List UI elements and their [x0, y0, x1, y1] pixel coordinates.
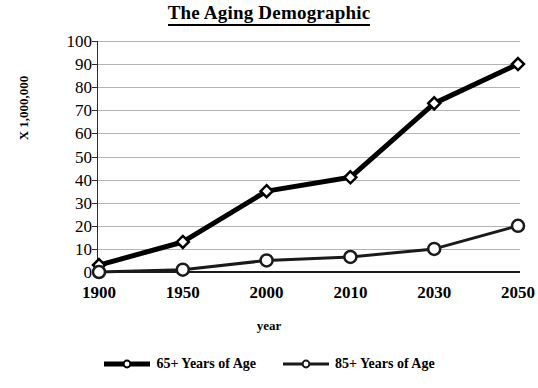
legend-label: 65+ Years of Age [156, 356, 256, 372]
x-tick-label: 1900 [59, 283, 139, 303]
y-tick-label: 10 [40, 240, 92, 257]
legend-item[interactable]: 65+ Years of Age [103, 356, 256, 372]
y-tick-label: 90 [40, 56, 92, 73]
y-axis-title: X 1,000,000 [16, 48, 32, 168]
x-tick-label: 2000 [227, 283, 307, 303]
y-tick-label: 70 [40, 102, 92, 119]
series-line [99, 64, 518, 265]
data-point-circle [177, 264, 189, 276]
y-axis-tick-labels: 0102030405060708090100 [40, 41, 92, 272]
data-point-circle [93, 266, 105, 278]
y-tick-label: 80 [40, 79, 92, 96]
x-tick-label: 1950 [143, 283, 223, 303]
chart-title-text: The Aging Demographic [168, 2, 371, 26]
x-tick-label: 2030 [394, 283, 474, 303]
data-point-circle [261, 254, 273, 266]
legend-swatch-2 [282, 357, 330, 371]
legend-swatch-1 [103, 357, 151, 371]
data-point-circle [512, 220, 524, 232]
y-tick-label: 40 [40, 171, 92, 188]
x-tick-label: 2050 [478, 283, 538, 303]
y-tick-label: 100 [40, 33, 92, 50]
x-axis-title: year [0, 318, 538, 334]
x-tick-label: 2010 [310, 283, 390, 303]
chart-title: The Aging Demographic [0, 2, 538, 24]
legend-item[interactable]: 85+ Years of Age [282, 356, 435, 372]
chart-container: The Aging Demographic X 1,000,000 010203… [0, 0, 538, 388]
y-tick-label: 60 [40, 125, 92, 142]
chart-legend: 65+ Years of Age85+ Years of Age [0, 356, 538, 372]
legend-label: 85+ Years of Age [335, 356, 435, 372]
y-tick-label: 30 [40, 194, 92, 211]
legend-marker [124, 361, 131, 368]
y-tick-label: 20 [40, 217, 92, 234]
series-1 [93, 58, 524, 271]
data-series-group [97, 41, 520, 272]
plot-area [97, 41, 520, 272]
data-point-circle [428, 243, 440, 255]
y-tick-label: 0 [40, 264, 92, 281]
y-tick-label: 50 [40, 148, 92, 165]
x-axis-tick-labels: 190019502000201020302050 [97, 283, 520, 309]
data-point-circle [344, 251, 356, 263]
legend-marker [303, 361, 310, 368]
